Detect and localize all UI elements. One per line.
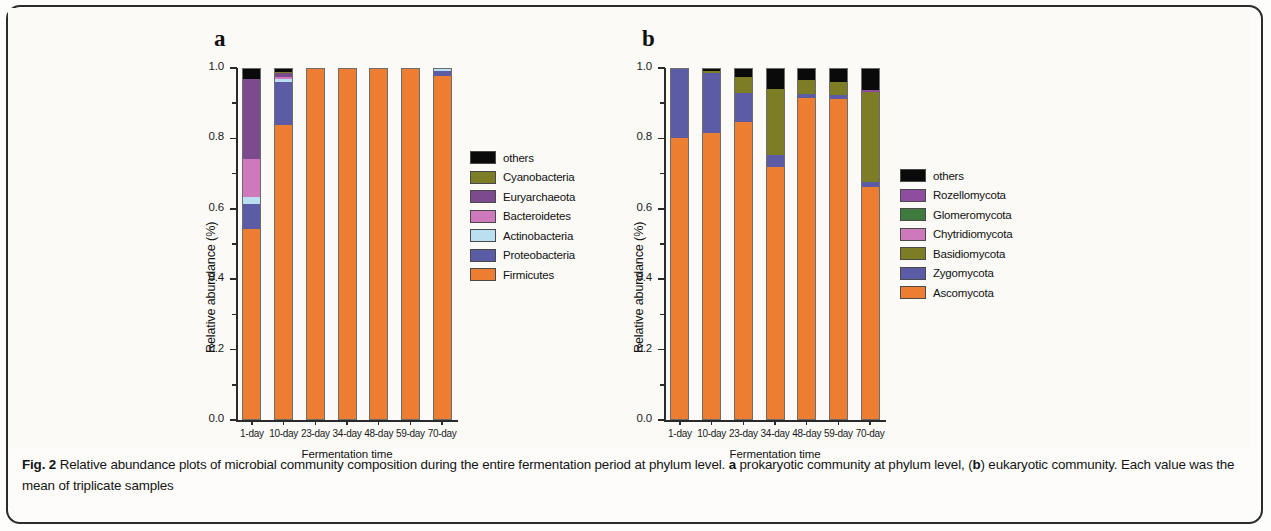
- panel-b-y-tick-label: 0.2: [618, 342, 652, 354]
- panel-a-x-tick: [251, 420, 253, 425]
- panel-a-x-tick: [315, 420, 317, 425]
- panel-a-y-tick-label: 0.2: [190, 342, 224, 354]
- panel-b-legend-swatch-basidiomycota: [900, 247, 926, 260]
- panel-a-ylabel: Relative abundance (%): [204, 222, 218, 353]
- panel-a-legend-item-actinobacteria[interactable]: Actinobacteria: [470, 226, 575, 246]
- panel-a-x-tick: [283, 420, 285, 425]
- panel-a-segment-firmicutes: [370, 68, 387, 419]
- panel-b-legend-item-others[interactable]: others: [900, 166, 1012, 186]
- panel-b: b Relative abundance (%) 0.00.20.40.60.8…: [628, 8, 1251, 448]
- panel-a-legend-item-others[interactable]: others: [470, 148, 575, 168]
- panel-b-bar-48-day[interactable]: [797, 68, 816, 420]
- panel-b-segment-others: [830, 68, 847, 82]
- panel-b-y-tick: [658, 419, 665, 421]
- panel-b-y-tick: [658, 349, 665, 351]
- panel-b-legend-swatch-rozellomycota: [900, 189, 926, 202]
- panel-b-segment-basidiomycota: [767, 89, 784, 155]
- panel-b-x-tick: [679, 420, 681, 425]
- panel-a-legend-item-cyanobacteria[interactable]: Cyanobacteria: [470, 168, 575, 188]
- panel-a-y-tick-label: 0.8: [190, 130, 224, 142]
- panel-b-legend-label: Basidiomycota: [933, 248, 1005, 260]
- panel-a-segment-proteobacteria: [434, 71, 451, 76]
- panel-b-letter: b: [642, 26, 655, 52]
- panel-a-bar-10-day[interactable]: [274, 68, 293, 420]
- panel-b-bar-34-day[interactable]: [766, 68, 785, 420]
- panel-a-x-tick: [378, 420, 380, 425]
- panel-a-y-tick: [230, 278, 237, 280]
- panel-b-segment-zygomycota: [798, 94, 815, 98]
- panel-a-bar-70-day[interactable]: [433, 68, 452, 420]
- panel-b-legend-item-chytridiomycota[interactable]: Chytridiomycota: [900, 225, 1012, 245]
- panel-a-legend: othersCyanobacteriaEuryarchaeotaBacteroi…: [470, 148, 575, 285]
- panel-a-y-tick: [230, 419, 237, 421]
- panel-a-segment-cyanobacteria: [275, 72, 292, 73]
- caption-panel-a-tag: a: [729, 457, 736, 472]
- panel-a-segment-firmicutes: [402, 69, 419, 419]
- figure-caption: Fig. 2 Relative abundance plots of micro…: [22, 455, 1237, 496]
- panel-a-bar-1-day[interactable]: [242, 68, 261, 420]
- panel-b-segment-basidiomycota: [830, 82, 847, 95]
- panel-a-y-tick-label: 1.0: [190, 60, 224, 72]
- panel-b-legend-swatch-zygomycota: [900, 267, 926, 280]
- caption-figure-label: Fig. 2: [22, 457, 56, 472]
- panel-b-legend-label: Rozellomycota: [933, 189, 1006, 201]
- panel-a-y-minor-tick: [232, 102, 237, 104]
- panel-a-bar-59-day[interactable]: [401, 68, 420, 420]
- panel-b-legend-item-zygomycota[interactable]: Zygomycota: [900, 264, 1012, 284]
- panel-b-y-tick-label: 0.0: [618, 412, 652, 424]
- panel-b-segment-basidiomycota: [862, 92, 879, 183]
- panel-a-y-tick: [230, 349, 237, 351]
- panel-b-legend-label: Zygomycota: [933, 267, 994, 279]
- panel-b-x-tick: [743, 420, 745, 425]
- panel-b-legend-item-glomeromycota[interactable]: Glomeromycota: [900, 205, 1012, 225]
- panel-a-legend-label: Proteobacteria: [503, 249, 575, 261]
- panel-b-bar-1-day[interactable]: [670, 68, 689, 420]
- panel-a-x-tick: [441, 420, 443, 425]
- panel-b-y-tick: [658, 208, 665, 210]
- panel-a-y-tick: [230, 67, 237, 69]
- panel-b-segment-ascomycota: [798, 98, 815, 419]
- panel-b-bar-59-day[interactable]: [829, 68, 848, 420]
- panel-b-y-tick: [658, 138, 665, 140]
- panel-a-segment-others: [275, 68, 292, 72]
- panel-a-legend-item-proteobacteria[interactable]: Proteobacteria: [470, 246, 575, 266]
- panel-a-bar-34-day[interactable]: [338, 68, 357, 420]
- panel-b-x-tick: [774, 420, 776, 425]
- panel-b-segment-zygomycota: [830, 95, 847, 99]
- panel-b-legend: othersRozellomycotaGlomeromycotaChytridi…: [900, 166, 1012, 303]
- panel-b-bar-10-day[interactable]: [702, 68, 721, 420]
- panel-a-segment-firmicutes: [243, 229, 260, 419]
- panel-a-segment-firmicutes: [434, 76, 451, 419]
- panel-a-x-tick: [410, 420, 412, 425]
- panel-b-y-minor-tick: [660, 243, 665, 245]
- panel-b-legend-item-ascomycota[interactable]: Ascomycota: [900, 283, 1012, 303]
- panel-b-legend-swatch-glomeromycota: [900, 208, 926, 221]
- panel-a-y-minor-tick: [232, 173, 237, 175]
- panel-a-segment-actinobacteria: [275, 79, 292, 82]
- panel-b-y-tick: [658, 278, 665, 280]
- panel-b-legend-item-basidiomycota[interactable]: Basidiomycota: [900, 244, 1012, 264]
- panel-a-bar-23-day[interactable]: [306, 68, 325, 420]
- panel-a-legend-item-euryarchaeota[interactable]: Euryarchaeota: [470, 187, 575, 207]
- panel-b-segment-basidiomycota: [735, 77, 752, 92]
- panel-a-letter: a: [214, 26, 226, 52]
- panel-a-segment-others: [402, 68, 419, 69]
- panel-a-legend-item-bacteroidetes[interactable]: Bacteroidetes: [470, 207, 575, 227]
- panel-a-y-tick: [230, 138, 237, 140]
- panel-b-segment-zygomycota: [735, 93, 752, 123]
- panel-b-segment-ascomycota: [703, 133, 720, 419]
- panel-a-legend-swatch-bacteroidetes: [470, 210, 496, 223]
- panel-b-segment-ascomycota: [767, 167, 784, 419]
- panel-b-legend-swatch-others: [900, 169, 926, 182]
- panel-a-bar-48-day[interactable]: [369, 68, 388, 420]
- panel-b-segment-others: [798, 68, 815, 80]
- panel-a-legend-label: Euryarchaeota: [503, 191, 575, 203]
- panel-a-segment-firmicutes: [339, 68, 356, 419]
- panel-a-legend-item-firmicutes[interactable]: Firmicutes: [470, 265, 575, 285]
- panel-b-bar-23-day[interactable]: [734, 68, 753, 420]
- panel-b-legend-item-rozellomycota[interactable]: Rozellomycota: [900, 186, 1012, 206]
- panel-a-legend-swatch-cyanobacteria: [470, 171, 496, 184]
- panel-b-bar-70-day[interactable]: [861, 68, 880, 420]
- panel-a-plot: 0.00.20.40.60.81.01-day10-day23-day34-da…: [236, 68, 458, 420]
- panel-b-y-minor-tick: [660, 102, 665, 104]
